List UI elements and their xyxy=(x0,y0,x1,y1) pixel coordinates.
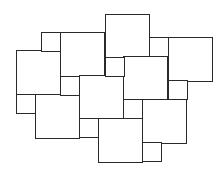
small-square-s1 xyxy=(42,33,61,52)
square-tiling-diagram xyxy=(0,0,224,175)
small-square-s6 xyxy=(17,95,36,114)
small-square-s2 xyxy=(150,38,169,57)
figure-caption xyxy=(60,163,224,173)
large-square-H xyxy=(143,100,187,144)
large-square-A xyxy=(17,51,61,95)
small-square-s8 xyxy=(80,119,99,138)
small-square-s7 xyxy=(124,100,143,119)
large-square-E xyxy=(124,57,168,101)
large-square-I xyxy=(99,119,143,163)
large-square-B xyxy=(61,33,105,77)
small-square-s9 xyxy=(143,143,162,162)
large-square-F xyxy=(80,76,124,120)
small-square-s4 xyxy=(61,77,80,96)
large-square-D xyxy=(169,38,213,82)
large-square-G xyxy=(36,95,80,139)
small-square-s3 xyxy=(106,58,125,77)
large-square-C xyxy=(106,15,150,59)
small-square-s5 xyxy=(169,81,188,100)
